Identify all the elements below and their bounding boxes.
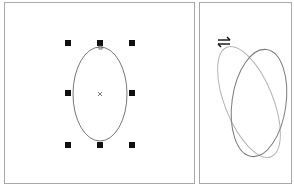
skew-arrows-icon <box>218 37 230 47</box>
handle-bottom-middle[interactable] <box>97 142 103 148</box>
center-marker-icon <box>98 92 102 96</box>
handle-middle-left[interactable] <box>65 90 71 96</box>
handle-bottom-left[interactable] <box>65 142 71 148</box>
handle-top-right[interactable] <box>129 40 135 46</box>
original-ellipse <box>225 46 294 160</box>
handle-top-left[interactable] <box>65 40 71 46</box>
handle-middle-right[interactable] <box>129 90 135 96</box>
handle-top-middle[interactable] <box>97 40 103 46</box>
handle-bottom-right[interactable] <box>129 142 135 148</box>
figure-canvas <box>0 0 294 191</box>
